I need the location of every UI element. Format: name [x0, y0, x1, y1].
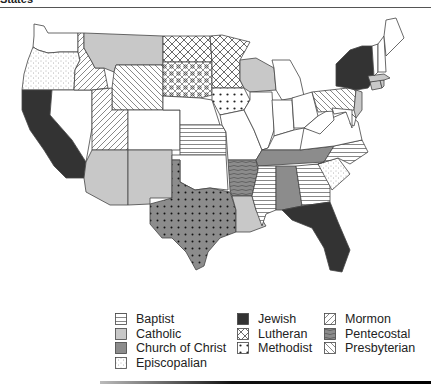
legend-item-church-of-christ: Church of Christ	[115, 341, 226, 356]
legend-item-lutheran: Lutheran	[237, 327, 312, 342]
state-ma	[368, 74, 390, 82]
legend-label: Episcopalian	[136, 356, 207, 370]
legend-item-catholic: Catholic	[115, 327, 226, 342]
state-me	[384, 18, 404, 56]
legend-swatch-church-of-christ	[115, 342, 127, 354]
legend-column-1: BaptistCatholicChurch of ChristEpiscopal…	[115, 312, 226, 370]
state-ks	[180, 125, 226, 155]
legend-swatch-mormon	[324, 313, 336, 325]
state-or	[22, 47, 80, 90]
state-sd	[163, 62, 212, 98]
legend-column-3: MormonPentecostalPresbyterian	[324, 312, 415, 356]
legend-item-mormon: Mormon	[324, 312, 415, 327]
legend: BaptistCatholicChurch of ChristEpiscopal…	[115, 312, 425, 372]
legend-swatch-lutheran	[237, 328, 249, 340]
state-ny	[336, 46, 374, 90]
legend-item-jewish: Jewish	[237, 312, 312, 327]
legend-item-episcopalian: Episcopalian	[115, 356, 226, 371]
legend-label: Presbyterian	[345, 341, 415, 355]
legend-column-2: JewishLutheranMethodist	[237, 312, 312, 356]
legend-swatch-baptist	[115, 313, 127, 325]
legend-item-methodist: Methodist	[237, 341, 312, 356]
legend-label: Methodist	[258, 341, 312, 355]
legend-label: Mormon	[345, 312, 391, 326]
state-wy	[112, 65, 163, 110]
legend-label: Baptist	[136, 312, 174, 326]
state-nm	[128, 150, 172, 205]
legend-label: Pentecostal	[345, 327, 410, 341]
legend-swatch-jewish	[237, 313, 249, 325]
state-wa	[33, 24, 78, 53]
state-az	[84, 150, 128, 205]
legend-swatch-episcopalian	[115, 357, 127, 369]
states-layer	[22, 18, 404, 272]
legend-item-pentecostal: Pentecostal	[324, 327, 415, 342]
legend-label: Lutheran	[258, 327, 307, 341]
legend-swatch-catholic	[115, 328, 127, 340]
state-mi	[272, 60, 304, 100]
state-fl	[282, 202, 350, 272]
legend-label: Church of Christ	[136, 341, 226, 355]
state-wi	[240, 58, 276, 92]
legend-label: Jewish	[258, 312, 296, 326]
legend-swatch-methodist	[237, 342, 249, 354]
legend-item-baptist: Baptist	[115, 312, 226, 327]
state-co	[128, 110, 180, 150]
state-nj	[354, 90, 362, 118]
legend-item-presbyterian: Presbyterian	[324, 341, 415, 356]
state-nd	[163, 36, 212, 62]
legend-label: Catholic	[136, 327, 181, 341]
legend-swatch-presbyterian	[324, 342, 336, 354]
legend-swatch-pentecostal	[324, 328, 336, 340]
us-religion-map	[0, 0, 431, 300]
